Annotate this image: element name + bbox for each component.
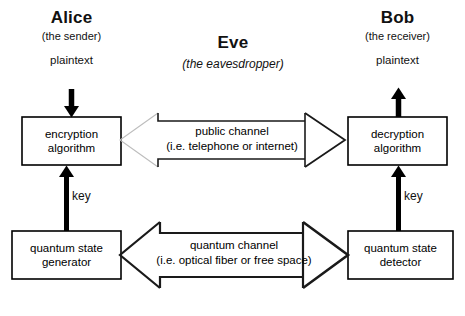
bob-plaintext-label: plaintext xyxy=(348,54,447,67)
quantum-state-generator-line2: generator xyxy=(42,255,91,269)
quantum-state-generator-label: quantum state generator xyxy=(12,231,121,279)
quantum-state-generator-line1: quantum state xyxy=(30,241,103,255)
quantum-channel-arrow xyxy=(120,222,348,288)
plaintext-out-arrow xyxy=(391,88,406,118)
alice-key-label: key xyxy=(72,190,108,203)
party-name-eve: Eve xyxy=(173,33,293,52)
party-name-bob: Bob xyxy=(348,8,447,27)
party-role-bob: (the receiver) xyxy=(343,30,452,42)
party-role-alice: (the sender) xyxy=(17,30,126,42)
bob-key-label: key xyxy=(404,190,440,203)
decryption-algorithm-line1: decryption xyxy=(371,127,424,141)
party-role-eve: (the eavesdropper) xyxy=(158,58,308,71)
alice-plaintext-label: plaintext xyxy=(22,54,121,67)
plaintext-in-arrow xyxy=(64,89,79,118)
encryption-algorithm-line1: encryption xyxy=(45,127,98,141)
decryption-algorithm-line2: algorithm xyxy=(374,141,421,155)
party-name-alice: Alice xyxy=(22,8,121,27)
quantum-state-detector-label: quantum state detector xyxy=(348,231,453,279)
quantum-state-detector-line2: detector xyxy=(380,255,422,269)
decryption-algorithm-label: decryption algorithm xyxy=(348,117,447,165)
quantum-state-detector-line1: quantum state xyxy=(364,241,437,255)
public-channel-arrow xyxy=(120,113,345,167)
diagram-canvas: Alice (the sender) plaintext encryption … xyxy=(0,0,465,316)
encryption-algorithm-line2: algorithm xyxy=(48,141,95,155)
encryption-algorithm-label: encryption algorithm xyxy=(22,117,121,165)
